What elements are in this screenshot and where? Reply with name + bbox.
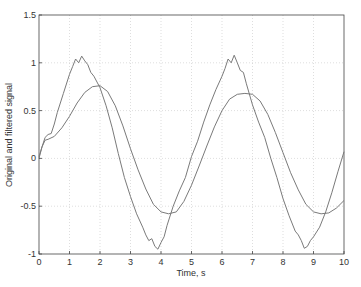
grid-lines — [39, 15, 344, 254]
x-tick-label: 7 — [250, 257, 255, 267]
y-tick-label: -1 — [28, 249, 36, 259]
y-axis-label: Original and filtered signal — [4, 83, 14, 187]
y-tick-label: -0.5 — [20, 201, 36, 211]
x-axis-ticks: 012345678910 — [36, 251, 349, 267]
x-tick-label: 8 — [280, 257, 285, 267]
y-tick-label: 0.5 — [23, 106, 36, 116]
plot-frame — [39, 15, 344, 254]
x-tick-label: 1 — [67, 257, 72, 267]
y-tick-label: 1 — [31, 58, 36, 68]
line-chart: 012345678910 -1-0.500.511.5 Time, s Orig… — [0, 0, 361, 287]
filtered-signal-line — [39, 86, 344, 214]
y-tick-label: 0 — [31, 153, 36, 163]
x-tick-label: 6 — [219, 257, 224, 267]
x-axis-label: Time, s — [176, 268, 206, 278]
x-tick-label: 5 — [189, 257, 194, 267]
x-tick-label: 10 — [339, 257, 349, 267]
x-tick-label: 9 — [311, 257, 316, 267]
x-tick-label: 4 — [158, 257, 163, 267]
x-tick-label: 0 — [36, 257, 41, 267]
x-tick-label: 3 — [128, 257, 133, 267]
x-tick-label: 2 — [97, 257, 102, 267]
y-tick-label: 1.5 — [23, 10, 36, 20]
